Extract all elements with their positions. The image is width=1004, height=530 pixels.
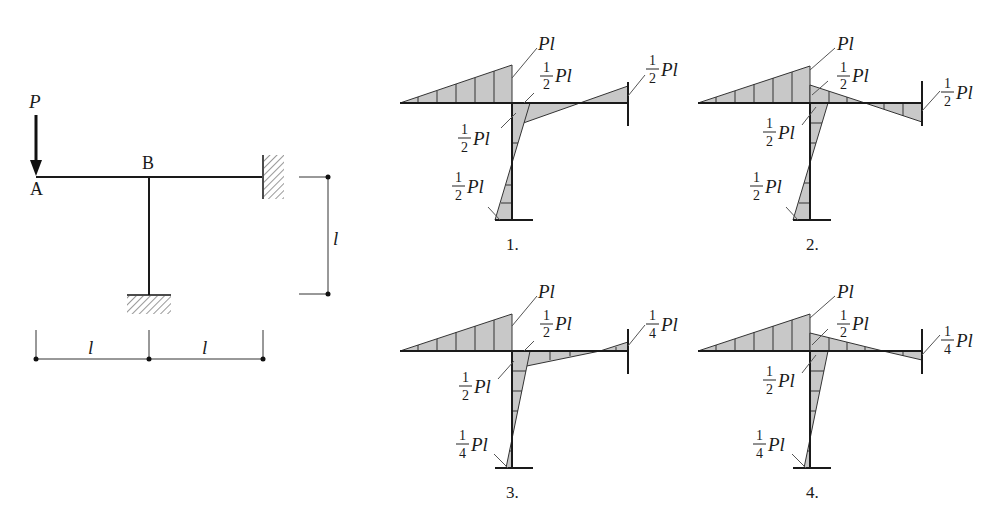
svg-text:1: 1 <box>455 170 462 185</box>
svg-text:1: 1 <box>753 170 760 185</box>
svg-text:1: 1 <box>462 370 469 385</box>
diagram-canvas: P A B l <box>0 0 1004 530</box>
vertical-dimension <box>299 175 331 297</box>
svg-text:2: 2 <box>543 77 550 92</box>
node-b-label: B <box>142 153 154 173</box>
svg-text:Pl: Pl <box>955 330 973 351</box>
fixed-support-right-icon <box>263 155 284 199</box>
option-3-number[interactable]: 3. <box>506 483 519 502</box>
option-4-number[interactable]: 4. <box>806 483 819 502</box>
svg-text:1: 1 <box>543 308 550 323</box>
svg-text:2: 2 <box>543 325 550 340</box>
svg-text:4: 4 <box>649 326 656 341</box>
option-2-right-end-label: 1 2 Pl <box>941 76 973 109</box>
option-3-col-top-label: 1 2 Pl <box>459 370 491 403</box>
svg-text:Pl: Pl <box>851 65 869 86</box>
svg-text:2: 2 <box>766 382 773 397</box>
svg-text:1: 1 <box>944 324 951 339</box>
svg-text:1: 1 <box>944 76 951 91</box>
svg-text:Pl: Pl <box>777 370 795 391</box>
option-2-col-top-label: 1 2 Pl <box>763 116 795 149</box>
svg-text:1: 1 <box>766 364 773 379</box>
svg-text:Pl: Pl <box>472 128 490 149</box>
svg-text:Pl: Pl <box>660 314 678 335</box>
option-4-right-end-label: 1 4 Pl <box>941 324 973 357</box>
option-1-col-bottom-label: 1 2 Pl <box>452 170 484 203</box>
option-1-diagram[interactable] <box>400 48 645 220</box>
dim-left-label: l <box>88 337 93 358</box>
option-1-right-end-label: 1 2 Pl <box>646 53 678 86</box>
option-1-peak-label: Pl <box>537 33 555 54</box>
problem-frame: P A B l <box>28 91 338 362</box>
option-2-col-bottom-label: 1 2 Pl <box>750 170 782 203</box>
svg-text:4: 4 <box>459 446 466 461</box>
option-4-col-top-label: 1 2 Pl <box>763 364 795 397</box>
svg-text:1: 1 <box>840 60 847 75</box>
svg-text:Pl: Pl <box>777 122 795 143</box>
option-4-peak-label: Pl <box>836 281 854 302</box>
svg-text:1: 1 <box>459 428 466 443</box>
svg-text:2: 2 <box>840 325 847 340</box>
option-2-number[interactable]: 2. <box>806 235 819 254</box>
svg-text:1: 1 <box>543 60 550 75</box>
svg-text:2: 2 <box>840 77 847 92</box>
option-1-col-top-label: 1 2 Pl <box>458 122 490 155</box>
svg-text:4: 4 <box>944 342 951 357</box>
svg-text:Pl: Pl <box>473 376 491 397</box>
svg-text:Pl: Pl <box>554 313 572 334</box>
option-1-beam-b-label: 1 2 Pl <box>540 60 572 92</box>
svg-text:Pl: Pl <box>466 176 484 197</box>
load-label: P <box>28 91 41 112</box>
option-4-diagram[interactable] <box>698 296 940 468</box>
svg-text:2: 2 <box>944 94 951 109</box>
svg-text:Pl: Pl <box>554 65 572 86</box>
svg-text:2: 2 <box>462 388 469 403</box>
horizontal-dimension <box>34 330 266 362</box>
option-3-right-end-label: 1 4 Pl <box>646 308 678 341</box>
option-2-diagram[interactable] <box>698 48 940 220</box>
svg-text:2: 2 <box>461 140 468 155</box>
svg-text:1: 1 <box>756 428 763 443</box>
svg-text:2: 2 <box>649 71 656 86</box>
dim-vertical-label: l <box>333 228 338 249</box>
option-3-col-bottom-label: 1 4 Pl <box>456 428 488 461</box>
node-a-label: A <box>30 179 43 199</box>
option-3-beam-b-label: 1 2 Pl <box>540 308 572 340</box>
svg-text:1: 1 <box>840 308 847 323</box>
svg-text:1: 1 <box>766 116 773 131</box>
option-4-beam-b-label: 1 2 Pl <box>837 308 869 340</box>
svg-text:1: 1 <box>649 308 656 323</box>
svg-text:Pl: Pl <box>470 434 488 455</box>
option-3-diagram[interactable] <box>400 296 645 468</box>
svg-text:Pl: Pl <box>660 59 678 80</box>
option-3-peak-label: Pl <box>537 281 555 302</box>
load-arrow-icon <box>30 115 42 176</box>
option-2-beam-b-label: 1 2 Pl <box>837 60 869 92</box>
svg-text:2: 2 <box>766 134 773 149</box>
svg-text:1: 1 <box>461 122 468 137</box>
option-4-col-bottom-label: 1 4 Pl <box>753 428 785 461</box>
svg-text:2: 2 <box>753 188 760 203</box>
svg-text:1: 1 <box>649 53 656 68</box>
dim-right-label: l <box>202 337 207 358</box>
svg-text:2: 2 <box>455 188 462 203</box>
svg-text:4: 4 <box>756 446 763 461</box>
fixed-support-bottom-icon <box>127 295 171 314</box>
svg-text:Pl: Pl <box>955 82 973 103</box>
option-2-peak-label: Pl <box>836 33 854 54</box>
option-1-number[interactable]: 1. <box>506 235 519 254</box>
svg-text:Pl: Pl <box>851 313 869 334</box>
svg-text:Pl: Pl <box>764 176 782 197</box>
svg-text:Pl: Pl <box>767 434 785 455</box>
